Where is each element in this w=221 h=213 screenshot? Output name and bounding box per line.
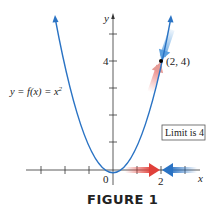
x-tick-label-2: 2 xyxy=(158,175,164,187)
x-tick-label-0: 0 xyxy=(103,173,109,185)
red-arrow-up-icon xyxy=(152,60,167,73)
function-label: y = f(x) = x2 xyxy=(9,85,63,98)
point-2-4 xyxy=(159,59,163,63)
limit-label: Limit is 4 xyxy=(165,127,204,138)
y-tick-label-4: 4 xyxy=(103,55,109,67)
curve-left-arrow-icon xyxy=(53,15,59,23)
figure-caption: FIGURE 1 xyxy=(87,192,158,207)
y-axis xyxy=(109,13,117,185)
x-axis-label: x xyxy=(197,172,203,184)
curve-right-arrow-icon xyxy=(168,15,174,23)
y-axis-label: y xyxy=(103,12,109,24)
blue-arrow-left-icon xyxy=(162,163,173,177)
y-axis-arrow-icon xyxy=(111,13,115,19)
parabola-limit-figure: (2, 4) 4 0 2 x y y = f(x) = x2 Limit is … xyxy=(0,0,221,213)
point-label: (2, 4) xyxy=(166,55,190,68)
